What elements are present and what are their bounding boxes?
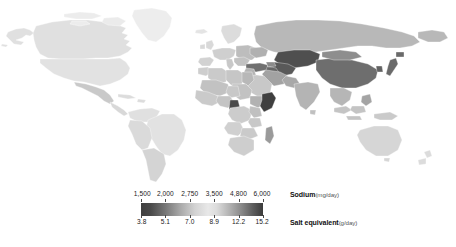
legend-label-sodium-unit: (mg/day) [315,191,339,198]
tick-label: 3.8 [137,218,146,225]
tick-mark [141,199,142,202]
tick-mark [165,199,166,202]
tick-label: 8.9 [209,218,218,225]
legend-label-sodium-name: Sodium [290,191,315,198]
legend-ticks-salt: 3.85.17.08.912.215.2 [141,218,263,230]
legend-label-salt-unit: (g/day) [339,219,358,226]
sodium-intake-world-map-figure: 1,5002,0002,7503,5004,8006,000 3.85.17.0… [0,0,456,247]
tick-label: 5.1 [161,218,170,225]
region-indonesia-java [346,116,362,120]
tick-label: 4,800 [230,190,247,197]
legend-ticks-sodium: 1,5002,0002,7503,5004,8006,000 [141,190,263,202]
map-area [0,2,456,187]
region-ireland [200,44,205,49]
tick-mark [214,199,215,202]
legend-color-bar [141,203,263,216]
tick-label: 12.2 [232,218,245,225]
tick-label: 3,500 [206,190,223,197]
region-sri-lanka [310,110,316,115]
tick-label: 1,500 [134,190,151,197]
tick-label: 7.0 [185,218,194,225]
tick-mark [239,199,240,202]
tick-label: 2,750 [181,190,198,197]
tick-mark [263,199,264,202]
world-map-svg [0,2,456,187]
region-hokkaido [396,52,404,57]
tick-mark [190,199,191,202]
legend-label-sodium: Sodium(mg/day) [290,191,339,198]
legend-label-salt-name: Salt equivalent [290,219,339,226]
tick-label: 2,000 [157,190,174,197]
legend-label-salt: Salt equivalent(g/day) [290,219,357,226]
tick-label: 15.2 [256,218,269,225]
region-korea [376,66,383,72]
legend: 1,5002,0002,7503,5004,8006,000 3.85.17.0… [0,190,456,242]
tick-label: 6,000 [253,190,270,197]
